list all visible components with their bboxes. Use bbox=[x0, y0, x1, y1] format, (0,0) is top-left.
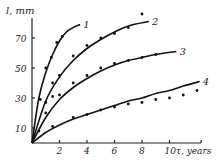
data-point bbox=[44, 101, 47, 104]
x-tick-label: 8 bbox=[139, 146, 145, 156]
data-point bbox=[113, 62, 116, 65]
data-point bbox=[182, 94, 185, 97]
data-point bbox=[99, 37, 102, 40]
curve-4 bbox=[32, 82, 200, 144]
data-point bbox=[72, 55, 75, 58]
data-point bbox=[196, 89, 199, 92]
data-point bbox=[141, 56, 144, 59]
y-tick-label: 70 bbox=[15, 34, 27, 44]
x-tick-label: 10 bbox=[165, 146, 177, 156]
data-point bbox=[99, 109, 102, 112]
y-axis-label: l, mm bbox=[6, 5, 35, 16]
curves: 1234 bbox=[32, 16, 209, 144]
curve-label-4: 4 bbox=[202, 76, 209, 87]
data-point bbox=[141, 13, 144, 16]
data-point bbox=[113, 106, 116, 109]
data-point bbox=[58, 94, 61, 97]
data-point bbox=[86, 74, 89, 77]
data-point bbox=[86, 44, 89, 47]
data-point bbox=[72, 116, 75, 119]
growth-chart: 24681010305070 1234 l, mm τ, years bbox=[0, 0, 224, 165]
x-tick-label: 4 bbox=[83, 146, 90, 156]
data-point bbox=[58, 74, 61, 77]
x-tick-label: 6 bbox=[112, 146, 118, 156]
data-point bbox=[154, 98, 157, 101]
data-point bbox=[44, 112, 47, 115]
data-point bbox=[99, 67, 102, 70]
data-point bbox=[61, 35, 64, 38]
curve-label-2: 2 bbox=[151, 16, 158, 27]
data-point bbox=[55, 41, 58, 44]
data-point bbox=[86, 113, 89, 116]
x-tick-label: 2 bbox=[56, 146, 63, 156]
y-tick-label: 50 bbox=[15, 64, 27, 74]
data-point bbox=[44, 67, 47, 70]
data-point bbox=[51, 95, 54, 98]
data-point bbox=[37, 130, 40, 133]
y-tick-label: 30 bbox=[15, 94, 27, 104]
data-point bbox=[127, 103, 130, 106]
data-point bbox=[141, 101, 144, 104]
data-point bbox=[168, 97, 171, 100]
curve-2 bbox=[32, 22, 149, 144]
data-point bbox=[50, 56, 53, 59]
data-point bbox=[127, 26, 130, 29]
data-point bbox=[113, 32, 116, 35]
data-point bbox=[51, 125, 54, 128]
y-tick-label: 10 bbox=[15, 124, 27, 134]
data-point bbox=[72, 82, 75, 85]
curve-label-1: 1 bbox=[83, 19, 89, 30]
plot-area: 24681010305070 1234 l, mm τ, years bbox=[0, 0, 224, 165]
data-point bbox=[154, 53, 157, 56]
data-point bbox=[39, 98, 42, 101]
curve-label-3: 3 bbox=[179, 46, 185, 57]
data-point bbox=[127, 59, 130, 62]
x-axis-label: τ, years bbox=[176, 146, 212, 156]
data-point bbox=[51, 82, 54, 85]
